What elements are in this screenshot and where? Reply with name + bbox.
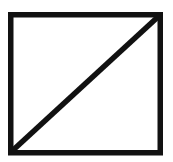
diagonal-line bbox=[11, 15, 160, 152]
placeholder-figure bbox=[0, 0, 173, 162]
